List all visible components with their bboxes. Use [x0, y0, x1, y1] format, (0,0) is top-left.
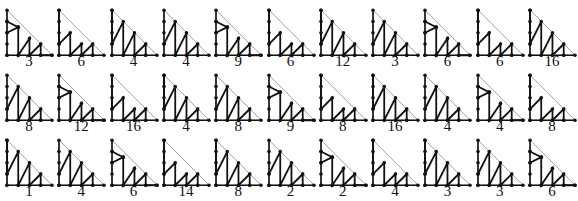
- triangle-figure: 8: [215, 134, 267, 200]
- multiplicity-label: 8: [320, 119, 366, 134]
- multiplicity-label: 3: [477, 184, 523, 199]
- triangle-figure: 3: [6, 4, 58, 70]
- lattice-triangle-icon: [215, 134, 267, 186]
- lattice-triangle-icon: [372, 134, 424, 186]
- triangle-figure: 4: [424, 69, 476, 135]
- triangle-figure: 16: [372, 69, 424, 135]
- triangle-figure: 6: [424, 4, 476, 70]
- lattice-triangle-icon: [424, 4, 476, 56]
- lattice-triangle-icon: [268, 69, 320, 121]
- multiplicity-label: 4: [163, 54, 209, 69]
- triangle-figure: 6: [111, 134, 163, 200]
- lattice-triangle-icon: [163, 134, 215, 186]
- triangle-figure: 3: [372, 4, 424, 70]
- lattice-triangle-icon: [163, 69, 215, 121]
- multiplicity-label: 9: [268, 119, 314, 134]
- lattice-triangle-icon: [58, 134, 110, 186]
- lattice-triangle-icon: [477, 134, 529, 186]
- triangle-figure: 16: [529, 4, 578, 70]
- multiplicity-label: 2: [268, 184, 314, 199]
- multiplicity-label: 9: [215, 54, 261, 69]
- triangle-figure: 9: [215, 4, 267, 70]
- multiplicity-label: 6: [424, 54, 470, 69]
- multiplicity-label: 4: [477, 119, 523, 134]
- multiplicity-label: 16: [372, 119, 418, 134]
- triangle-figure: 6: [477, 4, 529, 70]
- multiplicity-label: 4: [372, 184, 418, 199]
- triangle-figure: 6: [529, 134, 578, 200]
- lattice-triangle-icon: [320, 134, 372, 186]
- multiplicity-label: 8: [529, 119, 575, 134]
- triangle-figure: 6: [58, 4, 110, 70]
- multiplicity-label: 8: [215, 119, 261, 134]
- triangle-figure: 4: [163, 4, 215, 70]
- multiplicity-label: 8: [215, 184, 261, 199]
- lattice-triangle-icon: [268, 134, 320, 186]
- multiplicity-label: 12: [320, 54, 366, 69]
- lattice-triangle-icon: [372, 69, 424, 121]
- lattice-triangle-icon: [529, 4, 578, 56]
- lattice-triangle-icon: [477, 4, 529, 56]
- diagram-grid: 364496123661681216489816448146148224336: [0, 0, 578, 201]
- lattice-triangle-icon: [372, 4, 424, 56]
- lattice-triangle-icon: [6, 69, 58, 121]
- lattice-triangle-icon: [111, 4, 163, 56]
- triangle-figure: 2: [320, 134, 372, 200]
- triangle-figure: 8: [215, 69, 267, 135]
- triangle-figure: 3: [477, 134, 529, 200]
- multiplicity-label: 4: [111, 54, 157, 69]
- multiplicity-label: 16: [111, 119, 157, 134]
- lattice-triangle-icon: [111, 134, 163, 186]
- lattice-triangle-icon: [6, 4, 58, 56]
- lattice-triangle-icon: [163, 4, 215, 56]
- multiplicity-label: 2: [320, 184, 366, 199]
- lattice-triangle-icon: [477, 69, 529, 121]
- triangle-figure: 8: [529, 69, 578, 135]
- lattice-triangle-icon: [320, 69, 372, 121]
- triangle-figure: 14: [163, 134, 215, 200]
- multiplicity-label: 6: [111, 184, 157, 199]
- triangle-figure: 8: [6, 69, 58, 135]
- lattice-triangle-icon: [424, 134, 476, 186]
- multiplicity-label: 6: [529, 184, 575, 199]
- multiplicity-label: 6: [58, 54, 104, 69]
- triangle-figure: 16: [111, 69, 163, 135]
- triangle-figure: 4: [111, 4, 163, 70]
- multiplicity-label: 3: [372, 54, 418, 69]
- lattice-triangle-icon: [215, 69, 267, 121]
- multiplicity-label: 12: [58, 119, 104, 134]
- multiplicity-label: 16: [529, 54, 575, 69]
- multiplicity-label: 6: [268, 54, 314, 69]
- triangle-figure: 4: [163, 69, 215, 135]
- multiplicity-label: 3: [424, 184, 470, 199]
- lattice-triangle-icon: [424, 69, 476, 121]
- triangle-figure: 2: [268, 134, 320, 200]
- multiplicity-label: 6: [477, 54, 523, 69]
- triangle-figure: 12: [58, 69, 110, 135]
- triangle-figure: 6: [268, 4, 320, 70]
- lattice-triangle-icon: [58, 4, 110, 56]
- triangle-figure: 12: [320, 4, 372, 70]
- triangle-figure: 4: [477, 69, 529, 135]
- multiplicity-label: 4: [58, 184, 104, 199]
- multiplicity-label: 4: [424, 119, 470, 134]
- triangle-figure: 4: [58, 134, 110, 200]
- triangle-figure: 4: [372, 134, 424, 200]
- lattice-triangle-icon: [320, 4, 372, 56]
- multiplicity-label: 4: [163, 119, 209, 134]
- lattice-triangle-icon: [529, 69, 578, 121]
- triangle-figure: 8: [320, 69, 372, 135]
- multiplicity-label: 14: [163, 184, 209, 199]
- triangle-figure: 1: [6, 134, 58, 200]
- lattice-triangle-icon: [6, 134, 58, 186]
- triangle-figure: 3: [424, 134, 476, 200]
- lattice-triangle-icon: [268, 4, 320, 56]
- multiplicity-label: 1: [6, 184, 52, 199]
- multiplicity-label: 3: [6, 54, 52, 69]
- multiplicity-label: 8: [6, 119, 52, 134]
- lattice-triangle-icon: [215, 4, 267, 56]
- triangle-figure: 9: [268, 69, 320, 135]
- lattice-triangle-icon: [111, 69, 163, 121]
- lattice-triangle-icon: [529, 134, 578, 186]
- lattice-triangle-icon: [58, 69, 110, 121]
